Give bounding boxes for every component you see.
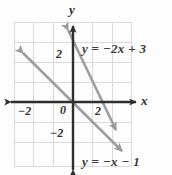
equation-label-line-2: y = −x − 1 [82, 155, 140, 168]
y-axis-label: y [69, 3, 75, 16]
x-axis-label: x [141, 94, 148, 107]
origin-label: 0 [60, 104, 66, 116]
x-tick-label-neg-2: −2 [18, 105, 31, 117]
equation-label-line-1: y = −2x + 3 [82, 42, 146, 55]
x-tick-label-2: 2 [95, 105, 101, 117]
y-tick-label-2: 2 [56, 48, 62, 60]
graph-canvas [0, 0, 172, 175]
y-tick-label-neg-2: −2 [50, 127, 63, 139]
coordinate-plane-figure: y x −2 2 2 −2 0 y = −2x + 3 y = −x − 1 [0, 0, 172, 175]
